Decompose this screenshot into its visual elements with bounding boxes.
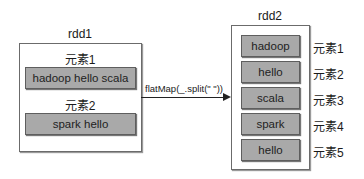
transformation-arrow	[141, 97, 224, 98]
rdd2-element-1-label: 元素1	[313, 39, 344, 56]
rdd2-element-1: hadoop	[241, 35, 300, 57]
rdd2-element-3-label: 元素3	[313, 91, 344, 108]
rdd2-element-3: scala	[241, 87, 300, 109]
rdd2-title: rdd2	[231, 9, 309, 23]
rdd2-element-2: hello	[241, 61, 300, 83]
rdd2-element-4: spark	[241, 113, 300, 135]
rdd2-element-5-label: 元素5	[313, 143, 344, 160]
arrow-head-icon	[223, 93, 231, 101]
rdd1-element-1-label: 元素1	[19, 50, 141, 67]
rdd2-element-2-label: 元素2	[313, 65, 344, 82]
rdd1-element-2: spark hello	[25, 113, 136, 135]
rdd2-element-4-label: 元素4	[313, 117, 344, 134]
flatmap-label: flatMap(_.split(" "))	[145, 83, 223, 94]
rdd1-element-2-label: 元素2	[19, 96, 141, 113]
rdd1-title: rdd1	[19, 27, 141, 41]
rdd1-element-1: hadoop hello scala	[25, 67, 136, 89]
rdd2-element-5: hello	[241, 139, 300, 161]
